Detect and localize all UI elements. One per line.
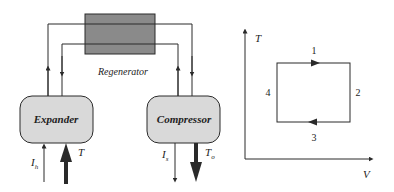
state-label-4: 4	[266, 87, 271, 98]
pipe-compressor-inner	[155, 44, 178, 96]
state-label-2: 2	[356, 87, 361, 98]
cycle-path	[277, 63, 350, 122]
x-axis-label: V	[363, 168, 371, 180]
regenerator-label: Regenerator	[97, 66, 148, 77]
input-temperature-label: T	[78, 146, 85, 158]
pipe-compressor-outer	[155, 24, 192, 96]
arrow-right-icon	[311, 60, 320, 67]
input-heat-label: Ih	[30, 156, 39, 171]
expander-label: Expander	[33, 113, 79, 125]
y-axis-label: T	[255, 32, 262, 44]
thick-arrow-up-icon	[60, 143, 72, 162]
stirling-cycle-diagram: Regenerator Expander Compressor Ih T Is	[0, 0, 394, 192]
thick-arrow-down-icon	[190, 162, 202, 182]
output-heat-label: Is	[161, 148, 169, 163]
compressor-label: Compressor	[157, 113, 212, 125]
output-temperature-label: To	[205, 146, 215, 161]
expander-input-heat: Ih	[30, 146, 44, 182]
compressor-output-temperature: To	[190, 143, 215, 182]
compressor-output-heat: Is	[161, 143, 175, 180]
tv-cycle-plot: T V 1 2 3 4	[245, 31, 371, 180]
state-label-3: 3	[312, 132, 317, 143]
state-label-1: 1	[312, 45, 317, 56]
pipe-expander-inner	[62, 44, 85, 96]
pipe-expander-outer	[48, 24, 85, 96]
schematic: Regenerator Expander Compressor Ih T Is	[20, 14, 220, 184]
arrow-left-icon	[308, 119, 317, 126]
expander-input-temperature: T	[60, 143, 85, 184]
regenerator-block	[85, 14, 155, 54]
